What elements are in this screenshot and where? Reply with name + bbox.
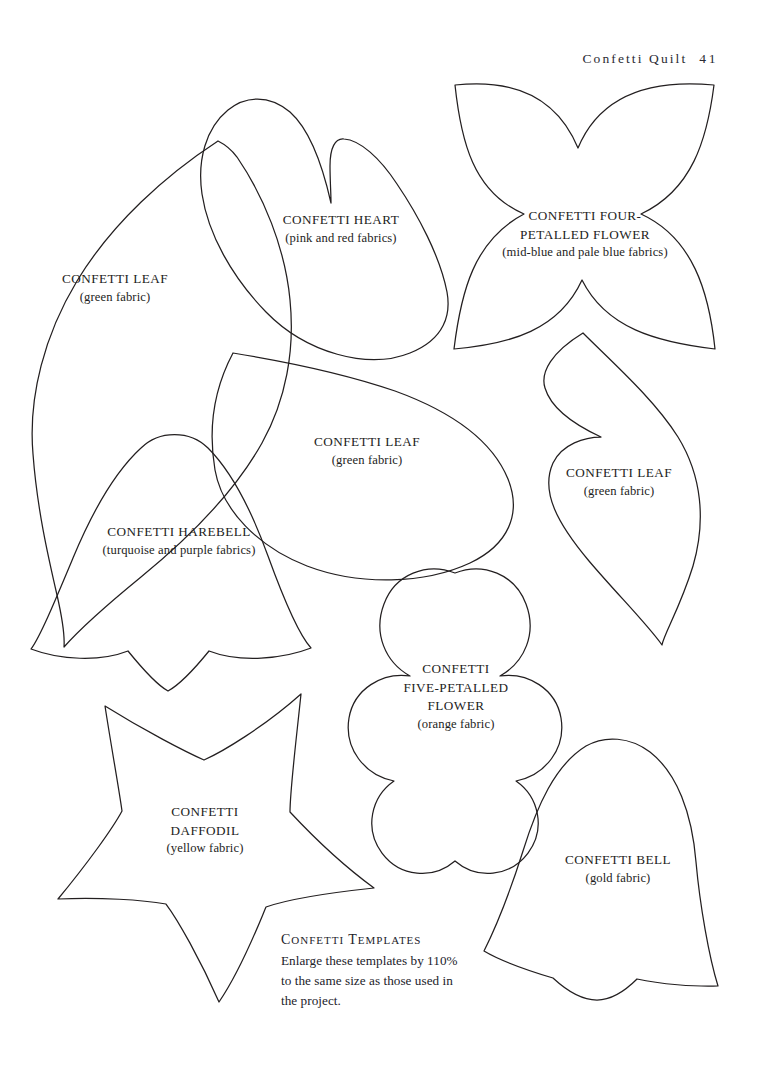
confetti-templates-note: CONFETTI TEMPLATES Enlarge these templat… — [281, 932, 461, 1011]
label-title-line-2: DAFFODIL — [167, 822, 244, 841]
label-confetti-daffodil: CONFETTI DAFFODIL (yellow fabric) — [167, 803, 244, 858]
label-fabric: (mid-blue and pale blue fabrics) — [502, 245, 667, 263]
label-confetti-four-petalled-flower: CONFETTI FOUR- PETALLED FLOWER (mid-blue… — [502, 207, 667, 262]
shape-confetti-harebell — [31, 435, 311, 692]
label-title-line-1: CONFETTI — [167, 803, 244, 822]
label-confetti-harebell: CONFETTI HAREBELL (turquoise and purple … — [103, 523, 256, 560]
label-title-line-1: CONFETTI — [403, 660, 508, 679]
label-confetti-bell: CONFETTI BELL (gold fabric) — [565, 851, 671, 888]
label-confetti-leaf-right: CONFETTI LEAF (green fabric) — [566, 464, 672, 501]
label-title-line-2: FIVE-PETALLED — [403, 679, 508, 698]
label-confetti-five-petalled-flower: CONFETTI FIVE-PETALLED FLOWER (orange fa… — [403, 660, 508, 734]
label-title: CONFETTI HAREBELL — [103, 523, 256, 542]
note-title: CONFETTI TEMPLATES — [281, 932, 461, 948]
label-title: CONFETTI LEAF — [62, 270, 168, 289]
label-title: CONFETTI BELL — [565, 851, 671, 870]
label-fabric: (orange fabric) — [403, 716, 508, 734]
label-fabric: (pink and red fabrics) — [283, 229, 400, 247]
label-title: CONFETTI LEAF — [314, 433, 420, 452]
label-fabric: (gold fabric) — [565, 869, 671, 887]
template-page: Confetti Quilt41 CONFETTI LEAF (green fa… — [0, 0, 776, 1070]
shape-confetti-leaf-large — [32, 141, 291, 647]
label-fabric: (green fabric) — [62, 288, 168, 306]
label-title-line-1: CONFETTI FOUR- — [502, 207, 667, 226]
label-confetti-heart: CONFETTI HEART (pink and red fabrics) — [283, 211, 400, 248]
label-confetti-leaf-middle: CONFETTI LEAF (green fabric) — [314, 433, 420, 470]
label-fabric: (green fabric) — [566, 482, 672, 500]
label-title: CONFETTI HEART — [283, 211, 400, 230]
label-title-line-3: FLOWER — [403, 697, 508, 716]
label-confetti-leaf-large: CONFETTI LEAF (green fabric) — [62, 270, 168, 307]
label-title-line-2: PETALLED FLOWER — [502, 226, 667, 245]
label-fabric: (green fabric) — [314, 451, 420, 469]
note-body: Enlarge these templates by 110% to the s… — [281, 951, 461, 1011]
label-fabric: (yellow fabric) — [167, 841, 244, 859]
label-title: CONFETTI LEAF — [566, 464, 672, 483]
label-fabric: (turquoise and purple fabrics) — [103, 541, 256, 559]
